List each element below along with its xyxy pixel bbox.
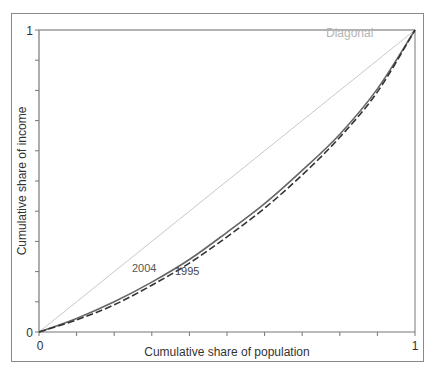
y-min-label: 0 [26, 326, 33, 340]
x-min-label: 0 [37, 339, 44, 353]
x-max-label: 1 [412, 339, 419, 353]
series-2004-label: 2004 [132, 262, 156, 274]
series-1995-label: 1995 [175, 265, 199, 277]
x-axis-title: Cumulative share of population [144, 345, 309, 359]
series-diagonal-line [39, 30, 415, 332]
diagonal-label: Diagonal [326, 26, 373, 40]
series-layer [39, 30, 415, 332]
y-max-label: 1 [26, 24, 33, 38]
lorenz-chart: 1 0 0 1 Cumulative share of population C… [0, 0, 435, 375]
y-axis-title: Cumulative share of income [15, 106, 29, 255]
